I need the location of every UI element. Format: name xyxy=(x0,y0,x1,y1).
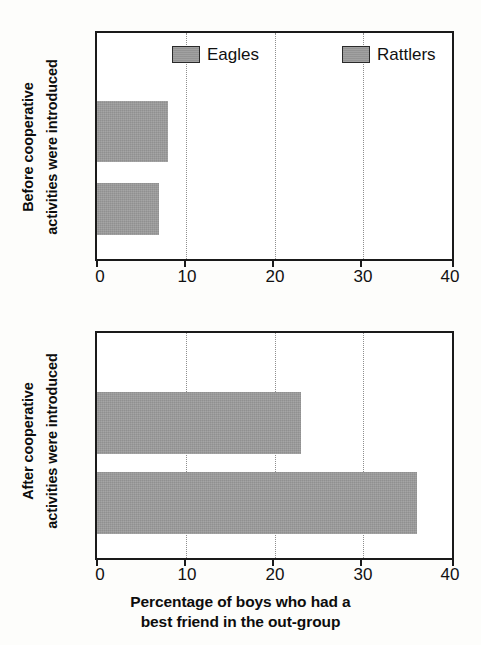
panel-after-axis-label: After cooperative xyxy=(20,316,36,566)
panel-before-axis-label-line2: activities were introduced xyxy=(44,22,60,272)
panel-before-axis-label-2: activities were introduced xyxy=(44,22,60,272)
bar-before-rattlers xyxy=(97,183,159,235)
gridline-30-before xyxy=(363,33,364,259)
panel-before-axis-label: Before cooperative xyxy=(20,22,36,272)
tick-mark-20-before xyxy=(272,260,274,267)
tick-label-0-after: 0 xyxy=(95,566,104,583)
panel-before-axis-label-line1: Before cooperative xyxy=(20,22,36,272)
tick-mark-40-before xyxy=(452,260,454,267)
x-axis-title: Percentage of boys who had a best friend… xyxy=(0,592,481,632)
tick-mark-30-before xyxy=(360,260,362,267)
tick-label-20-before: 20 xyxy=(266,268,285,285)
tick-label-10-after: 10 xyxy=(178,566,197,583)
x-axis-title-line1: Percentage of boys who had a xyxy=(0,592,481,612)
tick-mark-10-before xyxy=(184,260,186,267)
bar-after-rattlers xyxy=(97,472,417,534)
legend-label-eagles: Eagles xyxy=(207,46,259,63)
tick-label-30-before: 30 xyxy=(354,268,373,285)
tick-mark-0-before xyxy=(96,260,98,267)
legend-swatch-rattlers xyxy=(342,46,370,63)
tick-label-20-after: 20 xyxy=(266,566,285,583)
panel-after-axis-label-line1: After cooperative xyxy=(20,316,36,566)
bar-after-eagles xyxy=(97,392,301,454)
legend-label-rattlers: Rattlers xyxy=(377,46,436,63)
tick-label-40-before: 40 xyxy=(441,268,460,285)
tick-label-40-after: 40 xyxy=(441,566,460,583)
tick-label-0-before: 0 xyxy=(95,268,104,285)
panel-before-plot-area: Eagles Rattlers xyxy=(95,31,454,261)
gridline-20-before xyxy=(275,33,276,259)
panel-after-axis-label-2: activities were introduced xyxy=(44,316,60,566)
tick-label-10-before: 10 xyxy=(178,268,197,285)
x-axis-title-line2: best friend in the out-group xyxy=(0,612,481,632)
legend-swatch-eagles xyxy=(172,46,200,63)
gridline-10-before xyxy=(186,33,187,259)
legend-item-eagles: Eagles xyxy=(172,46,259,63)
tick-label-30-after: 30 xyxy=(354,566,373,583)
panel-after-axis-label-line2: activities were introduced xyxy=(44,316,60,566)
panel-after-plot-area xyxy=(95,331,454,560)
legend-item-rattlers: Rattlers xyxy=(342,46,436,63)
bar-before-eagles xyxy=(97,101,168,162)
bar-chart-figure: Before cooperative activities were intro… xyxy=(0,0,481,645)
